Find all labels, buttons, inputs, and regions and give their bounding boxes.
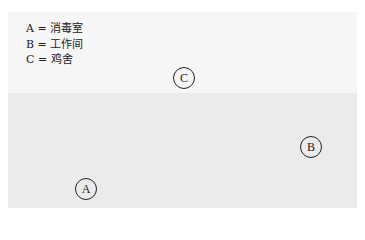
marker-b-label: B — [307, 140, 315, 155]
marker-a-label: A — [82, 182, 91, 197]
marker-c-label: C — [180, 71, 188, 86]
legend-item-c: C = 鸡舍 — [26, 52, 83, 68]
legend-item-b: B = 工作间 — [26, 37, 83, 53]
legend: A = 消毒室 B = 工作间 C = 鸡舍 — [26, 21, 83, 68]
marker-b-workroom: B — [300, 136, 322, 158]
marker-c-chicken-house: C — [173, 67, 195, 89]
marker-a-disinfection-room: A — [75, 178, 97, 200]
legend-item-a: A = 消毒室 — [26, 21, 83, 37]
